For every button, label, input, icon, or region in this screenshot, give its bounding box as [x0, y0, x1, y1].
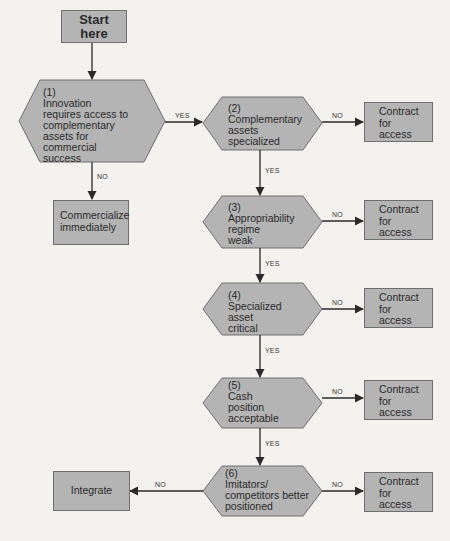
edge-label-3-no: NO — [332, 211, 343, 218]
decision-4-line: critical — [228, 323, 320, 334]
edge-label-5-yes: YES — [265, 440, 280, 447]
flowchart-canvas — [0, 0, 450, 541]
edge-label-3-yes: YES — [265, 260, 280, 267]
decision-4-text: (4) Specialized asset critical — [228, 290, 320, 334]
edge-label-2-no: NO — [332, 112, 343, 119]
commercialize-line2: immediately — [60, 222, 122, 234]
edge-label-4-no: NO — [332, 299, 343, 306]
commercialize-immediately-node: Commercialize immediately — [53, 200, 129, 245]
decision-2-text: (2) Complementary assets specialized — [228, 103, 320, 147]
contract-for-access-node-2: Contract for access — [364, 102, 433, 142]
contract-line3: access — [379, 315, 418, 327]
contract-line3: access — [379, 129, 418, 141]
decision-2-line: specialized — [228, 136, 320, 147]
edge-label-4-yes: YES — [265, 347, 280, 354]
contract-line3: access — [379, 499, 418, 511]
contract-for-access-node-4: Contract for access — [364, 288, 433, 328]
edge-label-1-no: NO — [97, 173, 108, 180]
start-label-line1: Start — [79, 13, 109, 27]
decision-6-line: positioned — [225, 501, 325, 512]
contract-line1: Contract — [379, 476, 418, 488]
contract-line1: Contract — [379, 384, 418, 396]
start-node: Start here — [61, 10, 127, 43]
contract-line1: Contract — [379, 292, 418, 304]
contract-for-access-node-6: Contract for access — [364, 472, 433, 512]
integrate-label: Integrate — [71, 485, 112, 497]
integrate-node: Integrate — [53, 471, 130, 511]
decision-5-text: (5) Cash position acceptable — [228, 380, 320, 424]
edge-label-6-no-right: NO — [332, 481, 343, 488]
decision-5-line: acceptable — [228, 413, 320, 424]
contract-line3: access — [379, 227, 418, 239]
decision-6-text: (6) Imitators/ competitors better positi… — [225, 468, 325, 512]
start-label-line2: here — [79, 27, 109, 41]
edge-label-5-no: NO — [332, 388, 343, 395]
contract-for-access-node-3: Contract for access — [364, 200, 433, 240]
decision-3-text: (3) Appropriability regime weak — [228, 202, 320, 246]
contract-line3: access — [379, 407, 418, 419]
commercialize-line1: Commercialize — [60, 210, 122, 222]
decision-1-line: success — [43, 153, 153, 164]
decision-3-line: weak — [228, 235, 320, 246]
contract-for-access-node-5: Contract for access — [364, 380, 433, 420]
edge-label-2-yes: YES — [265, 167, 280, 174]
contract-line1: Contract — [379, 204, 418, 216]
decision-1-text: (1) Innovation requires access to comple… — [43, 87, 153, 164]
edge-label-6-no-left: NO — [155, 481, 166, 488]
contract-line1: Contract — [379, 106, 418, 118]
edge-label-1-yes: YES — [175, 112, 190, 119]
